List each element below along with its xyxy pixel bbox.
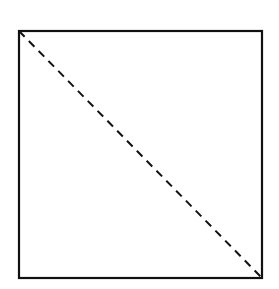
dashed-diagonal [19,31,262,278]
diagram-canvas [0,0,279,289]
